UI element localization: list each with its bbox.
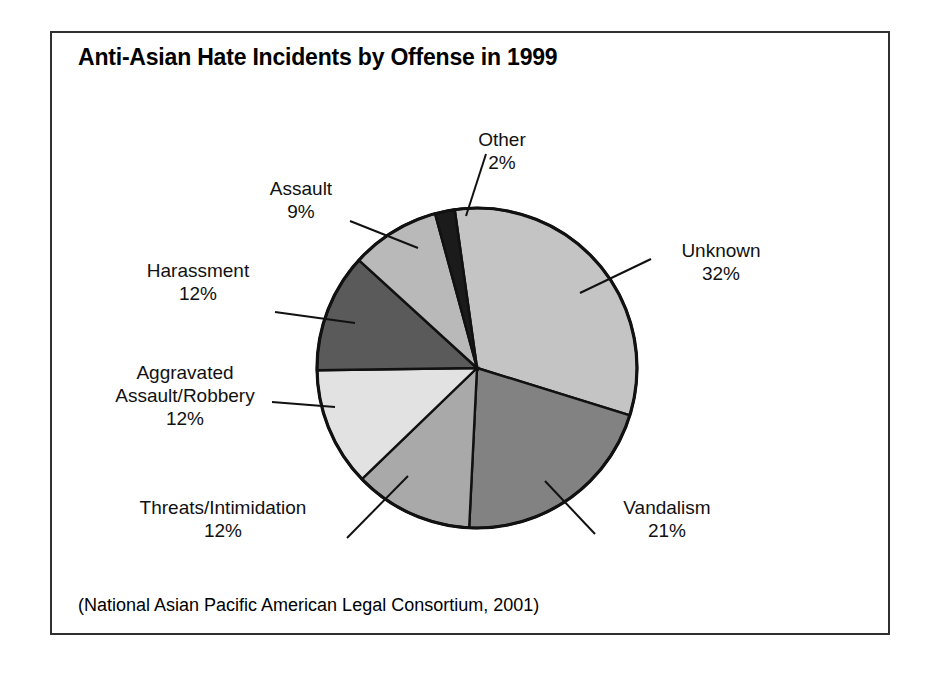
slice-label-threats-name: Threats/Intimidation — [140, 497, 307, 518]
slice-label-vandalism-pct: 21% — [602, 519, 732, 542]
slice-label-other-pct: 2% — [452, 151, 552, 174]
pie-slices — [317, 208, 637, 528]
slice-label-assault: Assault 9% — [246, 177, 356, 223]
slice-label-unknown: Unknown 32% — [656, 239, 786, 285]
slice-label-harassment: Harassment 12% — [128, 259, 268, 305]
slice-label-vandalism-name: Vandalism — [623, 497, 710, 518]
source-citation: (National Asian Pacific American Legal C… — [78, 595, 539, 616]
slice-label-unknown-pct: 32% — [656, 262, 786, 285]
slice-label-vandalism: Vandalism 21% — [602, 496, 732, 542]
slice-label-threats-intimidation: Threats/Intimidation 12% — [110, 496, 336, 542]
slice-label-aggravated-name-line2: Assault/Robbery — [105, 384, 265, 407]
slice-label-unknown-name: Unknown — [681, 240, 760, 261]
slice-label-aggravated-assault-robbery: Aggravated Assault/Robbery 12% — [105, 361, 265, 430]
slice-label-threats-pct: 12% — [110, 519, 336, 542]
slice-label-harassment-name: Harassment — [147, 260, 249, 281]
slice-label-harassment-pct: 12% — [128, 282, 268, 305]
slice-label-aggravated-name-line1: Aggravated — [136, 362, 233, 383]
pie-svg — [50, 31, 890, 635]
slice-label-other: Other 2% — [452, 128, 552, 174]
slice-label-assault-pct: 9% — [246, 200, 356, 223]
slice-label-other-name: Other — [478, 129, 526, 150]
slice-label-aggravated-pct: 12% — [105, 407, 265, 430]
pie-chart-figure: Anti-Asian Hate Incidents by Offense in … — [0, 0, 938, 675]
pie-plot-area: Other 2% Assault 9% Harassment 12% Aggra… — [50, 31, 890, 635]
slice-label-assault-name: Assault — [270, 178, 332, 199]
